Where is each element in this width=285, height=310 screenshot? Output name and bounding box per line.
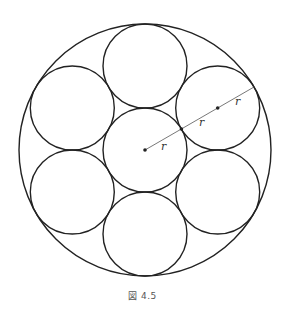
radius-label-2: r <box>199 116 205 129</box>
radius-label-1: r <box>161 140 167 153</box>
circle-upper-left <box>30 66 114 150</box>
circle-top <box>103 24 187 108</box>
outer-circle-center-point <box>216 106 220 110</box>
tangent-point <box>180 127 184 131</box>
center-point <box>143 148 147 152</box>
figure-caption: 図 4.5 <box>0 289 285 302</box>
seven-circles-diagram: r r r <box>0 0 285 310</box>
radius-label-3: r <box>235 95 241 108</box>
circle-lower-left <box>30 150 114 234</box>
circle-bottom <box>103 192 187 276</box>
circle-lower-right <box>176 150 260 234</box>
